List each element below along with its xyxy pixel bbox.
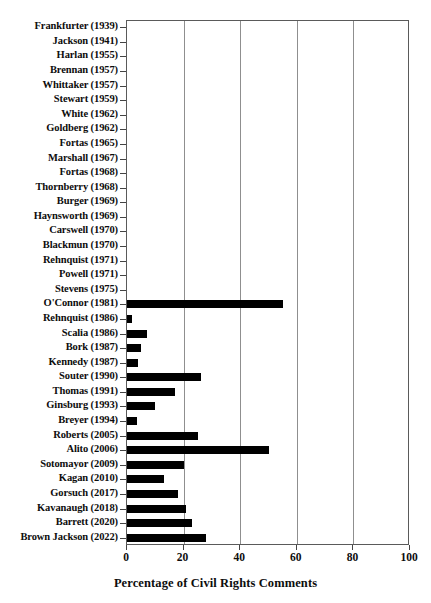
chart-row: Rehnquist (1986) bbox=[0, 312, 431, 327]
chart-row: Alito (2006) bbox=[0, 443, 431, 458]
y-axis-tick bbox=[120, 465, 126, 466]
chart-row: Fortas (1965) bbox=[0, 137, 431, 152]
category-label: Ginsburg (1993) bbox=[46, 399, 118, 410]
y-axis-tick bbox=[120, 261, 126, 262]
category-label: Frankfurter (1939) bbox=[35, 20, 118, 31]
y-axis-tick bbox=[120, 406, 126, 407]
chart-row: Haynsworth (1969) bbox=[0, 210, 431, 225]
y-axis-tick bbox=[120, 450, 126, 451]
y-axis-tick bbox=[120, 100, 126, 101]
chart-row: Thomas (1991) bbox=[0, 385, 431, 400]
x-axis: 020406080100 bbox=[126, 545, 409, 575]
y-axis-tick bbox=[120, 436, 126, 437]
chart-row: Frankfurter (1939) bbox=[0, 20, 431, 35]
bar bbox=[127, 359, 138, 367]
category-label: Thornberry (1968) bbox=[35, 181, 118, 192]
chart-row: O'Connor (1981) bbox=[0, 297, 431, 312]
chart-row: Ginsburg (1993) bbox=[0, 399, 431, 414]
chart-row: Kennedy (1987) bbox=[0, 355, 431, 370]
category-label: Jackson (1941) bbox=[53, 35, 118, 46]
category-label: Rehnquist (1986) bbox=[43, 312, 118, 323]
bar bbox=[127, 417, 137, 425]
category-label: Breyer (1994) bbox=[58, 414, 118, 425]
y-axis-tick bbox=[120, 173, 126, 174]
y-axis-tick bbox=[120, 509, 126, 510]
bar bbox=[127, 461, 184, 469]
y-axis-tick bbox=[120, 319, 126, 320]
chart-row: Goldberg (1962) bbox=[0, 122, 431, 137]
chart-row: Rehnquist (1971) bbox=[0, 253, 431, 268]
category-label: Barrett (2020) bbox=[56, 516, 118, 527]
y-axis-tick bbox=[120, 159, 126, 160]
category-label: Stewart (1959) bbox=[54, 93, 118, 104]
y-axis-tick bbox=[120, 188, 126, 189]
chart-row: Fortas (1968) bbox=[0, 166, 431, 181]
chart-row: Scalia (1986) bbox=[0, 326, 431, 341]
category-label: Rehnquist (1971) bbox=[43, 254, 118, 265]
category-label: Bork (1987) bbox=[66, 341, 118, 352]
y-axis-tick bbox=[120, 231, 126, 232]
bar bbox=[127, 344, 141, 352]
category-label: Brennan (1957) bbox=[50, 64, 118, 75]
y-axis-tick bbox=[120, 217, 126, 218]
category-label: Powell (1971) bbox=[59, 268, 118, 279]
bar bbox=[127, 373, 201, 381]
category-label: Brown Jackson (2022) bbox=[20, 531, 118, 542]
y-axis-tick bbox=[120, 202, 126, 203]
chart-row: Barrett (2020) bbox=[0, 516, 431, 531]
y-axis-tick bbox=[120, 377, 126, 378]
bar bbox=[127, 388, 175, 396]
category-label: Scalia (1986) bbox=[62, 327, 118, 338]
chart-row: Jackson (1941) bbox=[0, 35, 431, 50]
category-label: Thomas (1991) bbox=[53, 385, 119, 396]
x-axis-tick-label: 0 bbox=[123, 551, 129, 563]
bar bbox=[127, 402, 155, 410]
y-axis-tick bbox=[120, 392, 126, 393]
y-axis-tick bbox=[120, 27, 126, 28]
bar bbox=[127, 446, 269, 454]
category-label: Roberts (2005) bbox=[53, 429, 118, 440]
y-axis-tick bbox=[120, 523, 126, 524]
x-axis-tick-80 bbox=[352, 545, 353, 550]
chart-row: Roberts (2005) bbox=[0, 428, 431, 443]
category-label: Fortas (1968) bbox=[60, 166, 118, 177]
category-label: Souter (1990) bbox=[59, 370, 118, 381]
y-axis-tick bbox=[120, 304, 126, 305]
category-label: Harlan (1955) bbox=[57, 49, 118, 60]
y-axis-tick bbox=[120, 86, 126, 87]
category-label: Haynsworth (1969) bbox=[34, 210, 118, 221]
category-label: Marshall (1967) bbox=[48, 152, 118, 163]
y-axis-tick bbox=[120, 348, 126, 349]
y-axis-tick bbox=[120, 115, 126, 116]
y-axis-tick bbox=[120, 144, 126, 145]
chart-row: White (1962) bbox=[0, 108, 431, 123]
chart-row: Stewart (1959) bbox=[0, 93, 431, 108]
category-label: Kennedy (1987) bbox=[49, 356, 118, 367]
x-axis-tick-label: 100 bbox=[400, 551, 417, 563]
chart-row: Gorsuch (2017) bbox=[0, 487, 431, 502]
chart-row: Blackmun (1970) bbox=[0, 239, 431, 254]
chart-row: Breyer (1994) bbox=[0, 414, 431, 429]
category-label: White (1962) bbox=[61, 108, 118, 119]
chart-row: Carswell (1970) bbox=[0, 224, 431, 239]
x-axis-tick-0 bbox=[126, 545, 127, 550]
category-label: Carswell (1970) bbox=[49, 224, 118, 235]
y-axis-tick bbox=[120, 290, 126, 291]
chart-row: Powell (1971) bbox=[0, 268, 431, 283]
y-axis-tick bbox=[120, 129, 126, 130]
bar bbox=[127, 432, 198, 440]
x-axis-tick-label: 40 bbox=[233, 551, 245, 563]
y-axis-tick bbox=[120, 421, 126, 422]
chart-row: Bork (1987) bbox=[0, 341, 431, 356]
chart-row: Burger (1969) bbox=[0, 195, 431, 210]
category-label: Blackmun (1970) bbox=[43, 239, 118, 250]
category-label: Burger (1969) bbox=[57, 195, 118, 206]
bar bbox=[127, 505, 186, 513]
bar bbox=[127, 490, 178, 498]
category-label: Whittaker (1957) bbox=[43, 79, 119, 90]
y-axis-tick bbox=[120, 71, 126, 72]
y-axis-tick bbox=[120, 479, 126, 480]
chart-row: Brennan (1957) bbox=[0, 64, 431, 79]
y-axis-tick bbox=[120, 42, 126, 43]
y-axis-tick bbox=[120, 363, 126, 364]
